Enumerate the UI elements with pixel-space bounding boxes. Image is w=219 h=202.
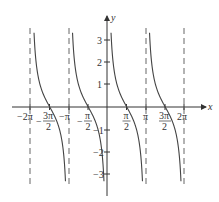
tick-y-neg-2: −2	[93, 147, 104, 158]
tick-neg-pi: −π	[59, 111, 70, 122]
tick-neg-3pi2-den: 2	[46, 121, 51, 132]
cotangent-graph: x y −2π − 3π 2 −π − π 2 π 2 π 3π 2 2π 3 …	[0, 0, 219, 202]
x-axis-label: x	[207, 101, 213, 112]
tick-neg-3pi2-num: 3π	[43, 110, 53, 121]
tick-y-2: 2	[97, 57, 102, 68]
y-axis-label: y	[110, 12, 116, 23]
tick-y-neg-1: −1	[93, 125, 104, 136]
tick-y-1: 1	[97, 79, 102, 90]
tick-3pi2-den: 2	[162, 121, 167, 132]
tick-neg-pi2-den: 2	[86, 121, 91, 132]
tick-y-neg-3: −3	[93, 169, 104, 180]
tick-3pi2-num: 3π	[159, 110, 169, 121]
tick-neg-pi2-minus: −	[77, 116, 83, 127]
tick-neg-3pi2-minus: −	[36, 116, 42, 127]
tick-neg-pi2-num: π	[85, 110, 90, 121]
tick-pi: π	[143, 111, 148, 122]
tick-pi2-num: π	[124, 110, 129, 121]
tick-y-3: 3	[97, 35, 102, 46]
tick-pi2-den: 2	[124, 121, 129, 132]
tick-2pi: 2π	[177, 111, 187, 122]
tick-neg-2pi: −2π	[17, 111, 33, 122]
